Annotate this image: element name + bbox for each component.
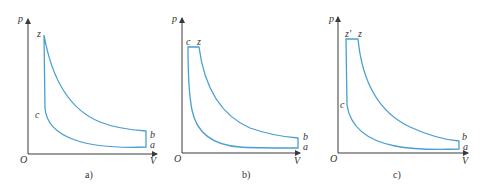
x-axis-label: V xyxy=(150,155,158,166)
caption-b: b) xyxy=(242,169,250,181)
origin-label: O xyxy=(330,153,337,164)
cycle-path xyxy=(44,35,146,147)
y-axis-label: p xyxy=(17,13,23,24)
diagram-b: p c z b a O V b) xyxy=(171,13,308,181)
origin-label: O xyxy=(20,154,27,165)
pv-diagrams-figure: p z c b a O V a) p c z b a O V b) p z' z… xyxy=(0,0,482,190)
diagram-a: p z c b a O V a) xyxy=(17,13,158,181)
cycle-path xyxy=(188,47,298,148)
y-axis-label: p xyxy=(171,13,177,24)
cycle-path xyxy=(346,39,459,149)
caption-a: a) xyxy=(85,169,93,181)
point-a-label: a xyxy=(303,141,308,152)
point-c-label: c xyxy=(340,99,345,110)
point-a-label: a xyxy=(150,139,155,150)
point-z-label: z xyxy=(36,28,41,39)
point-z-label: z xyxy=(357,28,362,39)
point-z-label: z xyxy=(196,36,201,47)
caption-c: c) xyxy=(393,169,401,181)
point-a-label: a xyxy=(463,141,468,152)
point-c-label: c xyxy=(186,36,191,47)
diagram-c: p z' z c b a O V c) xyxy=(328,13,470,181)
x-axis-label: V xyxy=(294,155,302,166)
point-z-prime-label: z' xyxy=(344,28,352,39)
x-axis-label: V xyxy=(462,155,470,166)
point-c-label: c xyxy=(35,109,40,120)
y-axis-label: p xyxy=(328,13,334,24)
origin-label: O xyxy=(174,153,181,164)
